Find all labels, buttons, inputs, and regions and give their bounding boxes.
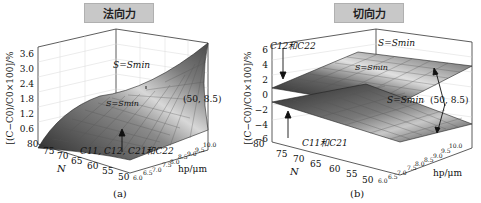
svg-text:−2: −2 xyxy=(255,105,268,115)
svg-text:3.0: 3.0 xyxy=(20,64,35,74)
svg-text:55: 55 xyxy=(346,169,358,179)
h-axis-label: hp/μm xyxy=(178,164,207,174)
panel-caption: (b) xyxy=(350,188,364,199)
svg-text:7.0: 7.0 xyxy=(152,166,162,173)
svg-text:55: 55 xyxy=(102,166,114,176)
svg-text:70: 70 xyxy=(57,151,69,161)
z-axis-label: [(C−C0)/C0×100]/% xyxy=(5,51,15,144)
h-axis-label: hp/μm xyxy=(433,168,462,178)
annotation-curve-label: C11, C12, C21和C22 xyxy=(80,146,174,156)
n-axis-label: N xyxy=(289,166,300,177)
surface-plot-b: 6 4 2 0 −2 −4 −6 [(C−C0)/C0×100]/% 80 75… xyxy=(240,0,481,203)
svg-text:4: 4 xyxy=(262,60,268,70)
panel-caption: (a) xyxy=(113,188,127,199)
annotation-point: (50, 8.5) xyxy=(430,95,469,105)
svg-text:10.0: 10.0 xyxy=(449,142,463,149)
svg-text:75: 75 xyxy=(276,149,288,159)
annotation-s-smin-upper: S=Smin xyxy=(355,63,388,72)
annotation-s-smin-surface: S=Smin xyxy=(106,99,139,108)
annotation-s-smin-top: S=Smin xyxy=(378,38,415,48)
svg-text:50: 50 xyxy=(118,172,130,182)
svg-text:60: 60 xyxy=(329,164,341,174)
svg-text:1.8: 1.8 xyxy=(20,94,35,104)
svg-text:80: 80 xyxy=(253,139,265,149)
annotation-s-smin-top: S=Smin xyxy=(113,60,150,70)
svg-text:7.0: 7.0 xyxy=(397,169,407,176)
surface-plot-a: 3.6 3.0 2.4 1.8 1.2 0.6 [(C−C0)/C0×100]/… xyxy=(0,0,240,203)
svg-text:2: 2 xyxy=(262,75,268,85)
annotation-point: (50, 8.5) xyxy=(183,94,222,104)
annotation-s-smin-mid: S=Smin xyxy=(387,95,424,105)
svg-text:0: 0 xyxy=(262,90,268,100)
svg-text:60: 60 xyxy=(87,161,99,171)
svg-text:70: 70 xyxy=(293,154,305,164)
annotation-upper-label: C12和C22 xyxy=(270,41,316,51)
svg-text:80: 80 xyxy=(27,139,39,149)
annotation-lower-label: C11和C21 xyxy=(302,138,348,148)
svg-text:3.6: 3.6 xyxy=(20,49,35,59)
svg-text:0.6: 0.6 xyxy=(20,124,35,134)
panel-tangential-force: 切向力 xyxy=(240,0,481,203)
svg-text:6.0: 6.0 xyxy=(378,177,388,184)
z-tick-labels: 3.6 3.0 2.4 1.8 1.2 0.6 xyxy=(20,49,35,134)
svg-text:6: 6 xyxy=(262,45,268,55)
svg-text:2.4: 2.4 xyxy=(20,79,35,89)
svg-text:−4: −4 xyxy=(255,120,269,130)
z-tick-labels: 6 4 2 0 −2 −4 −6 xyxy=(255,45,269,144)
n-axis-label: N xyxy=(56,163,67,174)
svg-text:10.0: 10.0 xyxy=(203,141,217,148)
svg-text:65: 65 xyxy=(310,159,322,169)
svg-text:75: 75 xyxy=(43,146,55,156)
panel-normal-force: 法向力 xyxy=(0,0,240,203)
svg-text:65: 65 xyxy=(71,156,83,166)
svg-text:50: 50 xyxy=(362,175,374,185)
z-axis-label: [(C−C0)/C0×100]/% xyxy=(243,51,253,144)
svg-text:6.0: 6.0 xyxy=(133,174,143,181)
svg-text:1.2: 1.2 xyxy=(20,109,34,119)
